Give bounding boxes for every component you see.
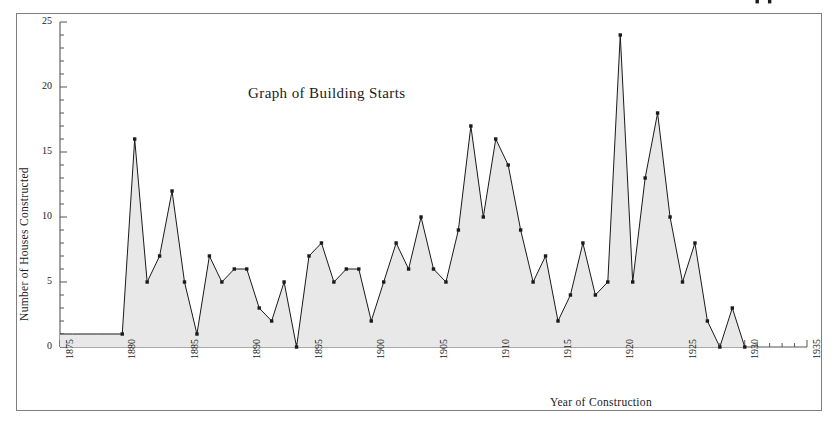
data-point-marker — [270, 319, 273, 322]
data-point-marker — [382, 280, 385, 283]
data-point-marker — [631, 280, 634, 283]
data-point-marker — [444, 280, 447, 283]
data-point-marker — [507, 163, 510, 166]
x-tick-label: 1905 — [438, 339, 449, 359]
data-point-marker — [569, 293, 572, 296]
data-point-marker — [258, 306, 261, 309]
data-point-marker — [482, 215, 485, 218]
data-point-marker — [544, 254, 547, 257]
data-point-marker — [208, 254, 211, 257]
data-point-marker — [345, 267, 348, 270]
data-point-marker — [494, 137, 497, 140]
y-axis-title: Number of Houses Constructed — [18, 144, 30, 344]
data-point-marker — [158, 254, 161, 257]
data-point-marker — [594, 293, 597, 296]
data-point-marker — [743, 345, 746, 348]
data-point-marker — [457, 228, 460, 231]
data-point-marker — [668, 215, 671, 218]
data-point-marker — [556, 319, 559, 322]
y-tick-label: 25 — [26, 15, 52, 26]
data-point-marker — [282, 280, 285, 283]
data-point-marker — [718, 345, 721, 348]
data-point-marker — [121, 332, 124, 335]
data-point-marker — [606, 280, 609, 283]
data-point-marker — [432, 267, 435, 270]
data-point-marker — [183, 280, 186, 283]
x-tick-label: 1935 — [811, 339, 822, 359]
data-point-marker — [233, 267, 236, 270]
x-tick-label: 1880 — [126, 339, 137, 359]
data-point-marker — [643, 176, 646, 179]
data-point-marker — [419, 215, 422, 218]
plot-area — [0, 0, 838, 425]
chart-figure: Graph of Building Starts Year of Constru… — [0, 0, 838, 425]
y-tick-label: 5 — [26, 275, 52, 286]
y-tick-label: 10 — [26, 210, 52, 221]
data-point-marker — [307, 254, 310, 257]
data-point-marker — [195, 332, 198, 335]
y-tick-label: 15 — [26, 145, 52, 156]
data-point-marker — [706, 319, 709, 322]
data-point-marker — [332, 280, 335, 283]
data-point-marker — [693, 241, 696, 244]
data-point-marker — [531, 280, 534, 283]
data-point-marker — [245, 267, 248, 270]
area-fill — [60, 35, 745, 347]
data-point-marker — [581, 241, 584, 244]
x-tick-label: 1890 — [251, 339, 262, 359]
data-point-marker — [681, 280, 684, 283]
data-point-marker — [133, 137, 136, 140]
x-tick-label: 1920 — [624, 339, 635, 359]
chart-title: Graph of Building Starts — [248, 85, 406, 102]
x-tick-label: 1895 — [313, 339, 324, 359]
x-tick-label: 1910 — [500, 339, 511, 359]
data-point-marker — [619, 33, 622, 36]
data-point-marker — [295, 345, 298, 348]
x-axis-title: Year of Construction — [550, 396, 652, 408]
y-tick-label: 0 — [26, 340, 52, 351]
data-point-marker — [519, 228, 522, 231]
data-point-marker — [220, 280, 223, 283]
data-point-marker — [407, 267, 410, 270]
x-tick-label: 1875 — [64, 339, 75, 359]
data-point-marker — [320, 241, 323, 244]
data-point-marker — [731, 306, 734, 309]
x-tick-label: 1900 — [375, 339, 386, 359]
data-point-marker — [357, 267, 360, 270]
data-point-marker — [768, 0, 771, 3]
data-point-marker — [145, 280, 148, 283]
x-tick-label: 1925 — [687, 339, 698, 359]
data-point-marker — [469, 124, 472, 127]
x-tick-label: 1915 — [562, 339, 573, 359]
x-tick-label: 1930 — [749, 339, 760, 359]
data-point-marker — [656, 111, 659, 114]
data-point-marker — [394, 241, 397, 244]
y-tick-label: 20 — [26, 80, 52, 91]
data-point-marker — [370, 319, 373, 322]
data-point-marker — [756, 0, 759, 3]
data-point-marker — [170, 189, 173, 192]
x-tick-label: 1885 — [189, 339, 200, 359]
